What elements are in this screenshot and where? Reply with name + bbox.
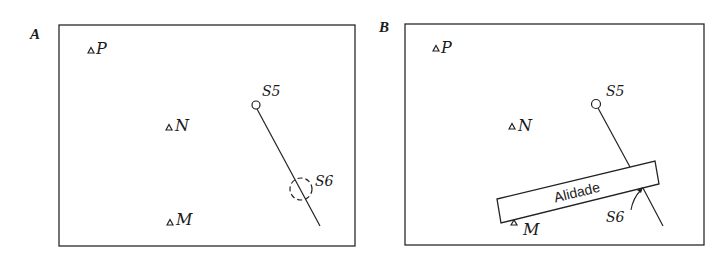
triangulation-point-p: P xyxy=(433,38,452,57)
triangle-icon xyxy=(88,48,94,54)
triangle-icon xyxy=(166,125,172,131)
triangulation-point-m: M xyxy=(511,220,540,239)
station-s5: S5 xyxy=(252,83,281,109)
panel-b-label: B xyxy=(378,19,389,35)
triangulation-point-n: N xyxy=(166,116,190,135)
triangulation-point-n: N xyxy=(509,116,533,135)
figure-canvas: A P N M S5 S6 B xyxy=(0,0,725,260)
sight-ray xyxy=(257,109,320,226)
triangulation-point-m: M xyxy=(167,210,193,229)
station-label-s6: S6 xyxy=(315,173,334,189)
panel-b: B P N S5 M Alidade xyxy=(378,19,704,245)
station-label-s6: S6 xyxy=(606,209,625,225)
sight-ray-upper xyxy=(598,108,630,167)
alidade: Alidade xyxy=(497,161,659,223)
point-label-p: P xyxy=(440,38,452,57)
arrow-shaft xyxy=(631,190,641,210)
point-label-p: P xyxy=(95,39,107,58)
panel-a: A P N M S5 S6 xyxy=(29,25,355,246)
panel-a-label: A xyxy=(29,26,40,42)
triangle-icon xyxy=(433,46,439,52)
station-label-s5: S5 xyxy=(606,83,625,99)
point-label-n: N xyxy=(517,116,533,135)
station-label-s5: S5 xyxy=(262,83,281,99)
station-s5: S5 xyxy=(592,83,625,109)
point-label-m: M xyxy=(175,210,193,229)
point-label-n: N xyxy=(174,116,190,135)
station-circle-icon xyxy=(252,101,260,109)
panel-a-frame xyxy=(59,25,355,246)
triangle-icon xyxy=(167,220,173,226)
dashed-circle-icon xyxy=(290,178,312,200)
point-label-m: M xyxy=(522,220,540,239)
sight-ray-lower xyxy=(643,188,663,226)
panel-b-frame xyxy=(405,24,704,245)
station-circle-icon xyxy=(592,100,601,109)
triangulation-point-p: P xyxy=(88,39,107,58)
triangle-icon xyxy=(509,124,515,130)
station-s6: S6 xyxy=(290,173,334,200)
